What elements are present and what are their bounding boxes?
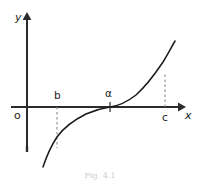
point-label-b: b <box>54 90 61 101</box>
point-label-alpha: α <box>105 88 112 99</box>
origin-label: o <box>14 110 21 121</box>
point-label-c: c <box>162 112 168 123</box>
figure-container: y x o b α c Fig. 4.1 <box>0 0 200 182</box>
y-axis-label: y <box>15 12 22 23</box>
figure-caption: Fig. 4.1 <box>0 172 200 180</box>
plot-canvas <box>0 0 200 182</box>
y-axis-arrowhead <box>23 12 32 20</box>
function-curve <box>43 41 175 167</box>
x-axis-label: x <box>185 110 192 121</box>
